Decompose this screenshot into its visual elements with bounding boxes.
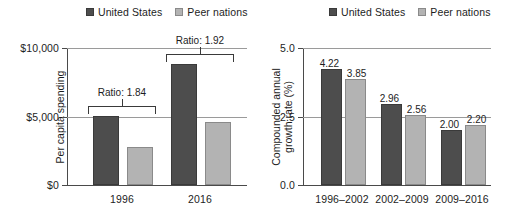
panel-per-capita-spending: United States Peer nations Per capita sp… bbox=[0, 0, 256, 218]
legend-label-united-states-right: United States bbox=[341, 7, 405, 18]
two-panel-bar-chart-figure: United States Peer nations Per capita sp… bbox=[0, 0, 518, 218]
legend-right: United States Peer nations bbox=[329, 7, 491, 18]
bar-united-states-1996 bbox=[93, 116, 119, 185]
ratio-annotation-1996: Ratio: 1.84 bbox=[88, 90, 156, 114]
bar-united-states-2009-2016: 2.00 bbox=[441, 130, 462, 185]
bars-layer-right: 4.22 3.85 2.96 2.56 bbox=[304, 48, 491, 185]
y-tick-left-0 bbox=[62, 185, 67, 186]
legend-entry-united-states-right: United States bbox=[329, 7, 405, 18]
bar-value-peer-nations-1996-2002: 3.85 bbox=[347, 68, 366, 79]
ratio-stem-2016 bbox=[200, 47, 201, 54]
legend-swatch-united-states-icon bbox=[329, 8, 337, 16]
x-tick-label-1996: 1996 bbox=[110, 193, 134, 205]
x-axis-line-right bbox=[303, 185, 491, 186]
bar-peer-nations-2002-2009: 2.56 bbox=[405, 115, 426, 185]
bar-value-united-states-2002-2009: 2.96 bbox=[380, 93, 399, 104]
bar-peer-nations-1996-2002: 3.85 bbox=[345, 79, 366, 185]
y-tick-label-right-5: 5.0 bbox=[280, 42, 295, 54]
legend-swatch-united-states-icon bbox=[86, 8, 94, 16]
legend-entry-peer-nations: Peer nations bbox=[175, 7, 247, 18]
legend-label-peer-nations: Peer nations bbox=[187, 7, 247, 18]
ratio-bracket-2016 bbox=[166, 54, 234, 62]
ratio-label-2016: Ratio: 1.92 bbox=[176, 35, 224, 46]
bar-peer-nations-2016 bbox=[205, 122, 231, 185]
x-tick-label-2002-2009: 2002–2009 bbox=[375, 193, 428, 205]
bar-value-united-states-1996-2002: 4.22 bbox=[320, 58, 339, 69]
bar-group-1996 bbox=[86, 116, 160, 185]
y-tick-label-right-2-5: 2.5 bbox=[280, 111, 295, 123]
x-tick-label-2009-2016: 2009–2016 bbox=[435, 193, 488, 205]
bar-group-1996-2002: 4.22 3.85 bbox=[318, 69, 368, 185]
plot-area-right: Compounded annual growth rate (%) 5.0 2.… bbox=[303, 48, 491, 186]
bar-peer-nations-2009-2016: 2.20 bbox=[465, 125, 486, 185]
legend-entry-united-states: United States bbox=[86, 7, 162, 18]
bar-united-states-1996-2002: 4.22 bbox=[321, 69, 342, 185]
bar-united-states-2002-2009: 2.96 bbox=[381, 104, 402, 185]
legend-label-peer-nations-right: Peer nations bbox=[430, 7, 490, 18]
ratio-stem-1996 bbox=[122, 99, 123, 106]
x-tick-label-1996-2002: 1996–2002 bbox=[315, 193, 368, 205]
y-tick-right-5 bbox=[298, 48, 303, 49]
ratio-annotation-2016: Ratio: 1.92 bbox=[166, 38, 234, 62]
y-tick-label-left-0: $0 bbox=[47, 179, 59, 191]
bar-group-2016 bbox=[164, 64, 238, 185]
y-tick-left-10000 bbox=[62, 48, 67, 49]
legend-label-united-states: United States bbox=[98, 7, 162, 18]
y-tick-right-0 bbox=[298, 185, 303, 186]
ratio-label-1996: Ratio: 1.84 bbox=[98, 87, 146, 98]
y-tick-right-2-5 bbox=[298, 117, 303, 118]
legend-entry-peer-nations-right: Peer nations bbox=[418, 7, 490, 18]
y-tick-left-5000 bbox=[62, 117, 67, 118]
y-tick-label-left-5000: $5,000 bbox=[26, 111, 59, 123]
bar-value-peer-nations-2002-2009: 2.56 bbox=[407, 104, 426, 115]
x-tick-label-2016: 2016 bbox=[188, 193, 212, 205]
bar-united-states-2016 bbox=[171, 64, 197, 185]
bar-value-peer-nations-2009-2016: 2.20 bbox=[467, 114, 486, 125]
bar-group-2009-2016: 2.00 2.20 bbox=[438, 125, 488, 185]
ratio-bracket-1996 bbox=[88, 106, 156, 114]
bar-group-2002-2009: 2.96 2.56 bbox=[378, 104, 428, 185]
bar-value-united-states-2009-2016: 2.00 bbox=[440, 119, 459, 130]
panel-compounded-annual-growth-rate: United States Peer nations Compounded an… bbox=[256, 0, 518, 218]
y-tick-label-left-10000: $10,000 bbox=[20, 42, 59, 54]
bar-peer-nations-1996 bbox=[127, 147, 153, 185]
legend-swatch-peer-nations-icon bbox=[175, 8, 183, 16]
legend-left: United States Peer nations bbox=[86, 7, 248, 18]
plot-area-left: Per capita spending $10,000 $5,000 $0 bbox=[67, 48, 247, 186]
bars-layer-left bbox=[68, 48, 247, 185]
x-axis-line-left bbox=[67, 185, 247, 186]
y-tick-label-right-0: 0.0 bbox=[280, 179, 295, 191]
legend-swatch-peer-nations-icon bbox=[418, 8, 426, 16]
